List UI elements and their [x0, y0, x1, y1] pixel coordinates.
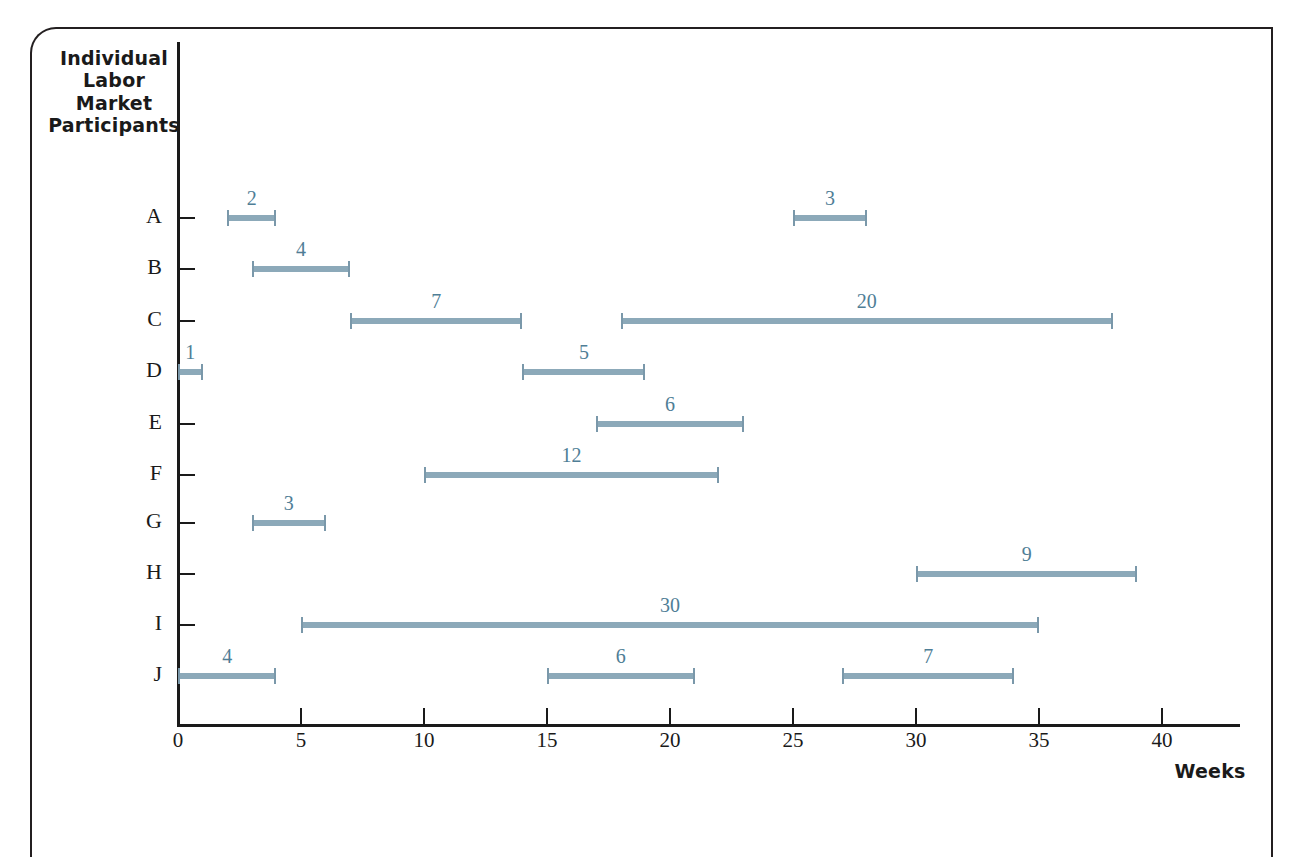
spell-duration-label: 6 — [591, 645, 651, 668]
spell-end-cap — [1037, 617, 1039, 633]
y-axis-title-line-2: Labor — [46, 69, 182, 91]
spell-start-cap — [916, 566, 918, 582]
spell-duration-label: 4 — [197, 645, 257, 668]
y-axis-tick — [180, 624, 195, 626]
x-axis-tick — [669, 708, 671, 725]
spell-start-cap — [252, 261, 254, 277]
spell-bar — [596, 421, 744, 427]
spell-duration-label: 2 — [222, 187, 282, 210]
spell-end-cap — [1111, 313, 1113, 329]
y-axis-category-label-h: H — [128, 559, 162, 585]
x-axis-tick — [915, 708, 917, 725]
spell-duration-label: 9 — [997, 543, 1057, 566]
x-axis-tick — [792, 708, 794, 725]
x-axis-tick-label: 35 — [1017, 728, 1061, 753]
spell-start-cap — [547, 668, 549, 684]
y-axis-tick — [180, 573, 195, 575]
x-axis-tick — [1161, 708, 1163, 725]
spell-bar — [842, 673, 1014, 679]
spell-bar — [252, 266, 350, 272]
x-axis-tick-label: 25 — [771, 728, 815, 753]
spell-bar — [178, 369, 203, 375]
y-axis-category-label-e: E — [128, 409, 162, 435]
spell-start-cap — [596, 416, 598, 432]
spell-bar — [178, 673, 276, 679]
y-axis-title-line-3: Market — [46, 92, 182, 114]
spell-duration-label: 3 — [259, 492, 319, 515]
y-axis-category-label-d: D — [128, 357, 162, 383]
spell-bar — [424, 472, 719, 478]
spell-end-cap — [274, 210, 276, 226]
spell-bar — [522, 369, 645, 375]
spell-bar — [916, 571, 1137, 577]
y-axis-tick — [180, 423, 195, 425]
spell-start-cap — [842, 668, 844, 684]
spell-bar — [793, 215, 867, 221]
y-axis-title-line-4: Participants — [46, 114, 182, 136]
spell-duration-label: 3 — [800, 187, 860, 210]
x-axis-tick-label: 0 — [156, 728, 200, 753]
x-axis-tick-label: 15 — [525, 728, 569, 753]
spell-end-cap — [643, 364, 645, 380]
spell-bar — [227, 215, 276, 221]
spell-bar — [547, 673, 695, 679]
y-axis-category-label-j: J — [128, 661, 162, 687]
spell-duration-label: 6 — [640, 393, 700, 416]
spell-end-cap — [348, 261, 350, 277]
y-axis-tick — [180, 217, 195, 219]
spell-duration-label: 1 — [160, 341, 220, 364]
spell-end-cap — [865, 210, 867, 226]
spell-bar — [301, 622, 1039, 628]
spell-end-cap — [693, 668, 695, 684]
y-axis-tick — [180, 522, 195, 524]
spell-start-cap — [621, 313, 623, 329]
y-axis-category-label-g: G — [128, 508, 162, 534]
spell-end-cap — [274, 668, 276, 684]
spell-duration-label: 7 — [898, 645, 958, 668]
y-axis-title: Individual Labor Market Participants — [46, 47, 182, 137]
spell-start-cap — [301, 617, 303, 633]
spell-start-cap — [424, 467, 426, 483]
x-axis-tick — [300, 708, 302, 725]
y-axis-title-line-1: Individual — [46, 47, 182, 69]
x-axis-tick-label: 20 — [648, 728, 692, 753]
spell-duration-label: 5 — [554, 341, 614, 364]
spell-duration-label: 7 — [406, 290, 466, 313]
x-axis-tick — [546, 708, 548, 725]
x-axis-tick-label: 10 — [402, 728, 446, 753]
spell-duration-label: 30 — [640, 594, 700, 617]
spell-end-cap — [1012, 668, 1014, 684]
spell-start-cap — [252, 515, 254, 531]
spell-duration-label: 12 — [542, 444, 602, 467]
spell-end-cap — [1135, 566, 1137, 582]
x-axis-line — [177, 724, 1240, 727]
spell-duration-label: 20 — [837, 290, 897, 313]
spell-end-cap — [717, 467, 719, 483]
spell-start-cap — [178, 364, 180, 380]
spell-bar — [621, 318, 1113, 324]
y-axis-category-label-b: B — [128, 254, 162, 280]
y-axis-tick — [180, 320, 195, 322]
spell-start-cap — [178, 668, 180, 684]
y-axis-category-label-i: I — [128, 610, 162, 636]
x-axis-tick — [1038, 708, 1040, 725]
spell-start-cap — [350, 313, 352, 329]
spell-bar — [252, 520, 326, 526]
x-axis-tick-label: 30 — [894, 728, 938, 753]
y-axis-tick — [180, 268, 195, 270]
spell-end-cap — [520, 313, 522, 329]
spell-start-cap — [227, 210, 229, 226]
x-axis-tick — [423, 708, 425, 725]
x-axis-tick-label: 40 — [1140, 728, 1184, 753]
spell-start-cap — [522, 364, 524, 380]
x-axis-tick-label: 5 — [279, 728, 323, 753]
spell-end-cap — [742, 416, 744, 432]
y-axis-category-label-f: F — [128, 460, 162, 486]
y-axis-tick — [180, 474, 195, 476]
spell-duration-label: 4 — [271, 238, 331, 261]
spell-end-cap — [324, 515, 326, 531]
spell-bar — [350, 318, 522, 324]
spell-end-cap — [201, 364, 203, 380]
